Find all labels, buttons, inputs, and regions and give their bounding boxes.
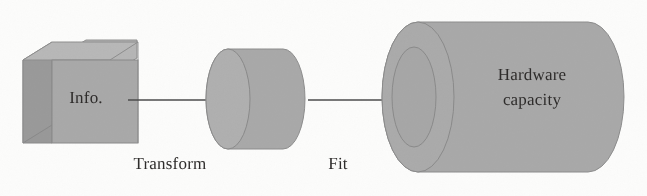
hardware-cylinder-label: Hardware capacity [452,62,612,112]
diagram-canvas: Info. Hardware capacity Transform Fit [0,0,647,196]
transform-cylinder [206,49,305,149]
edge-label-fit: Fit [316,154,360,174]
hardware-label-line-2: capacity [452,87,612,112]
hardware-label-line-1: Hardware [452,62,612,87]
info-cube-label: Info. [54,88,118,108]
edge-label-transform: Transform [122,154,218,174]
transform-cylinder-cap [206,49,250,149]
hardware-cylinder-inner-bore [392,47,436,147]
